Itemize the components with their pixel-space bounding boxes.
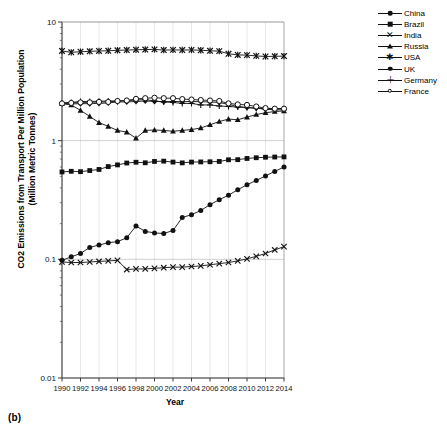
filled-circle-icon [378, 8, 402, 19]
data-point [189, 160, 194, 165]
data-point [198, 97, 203, 102]
legend-item-uk[interactable]: UK [378, 63, 446, 74]
data-point [263, 106, 268, 111]
legend: ChinaBrazil✕IndiaRussia✱USAUK＋GermanyFra… [378, 8, 446, 97]
data-point [134, 160, 139, 165]
filled-diamond-icon [378, 64, 402, 75]
data-point [133, 135, 139, 140]
legend-item-russia[interactable]: Russia [378, 41, 446, 52]
data-point [78, 169, 83, 174]
data-point [180, 160, 185, 165]
data-point [171, 160, 176, 165]
data-point [244, 102, 249, 107]
data-point [282, 154, 287, 159]
x-tick-label: 1998 [128, 384, 145, 393]
y-axis-ticks: 1010.10.01 [40, 18, 62, 383]
data-point [180, 97, 185, 102]
data-point [245, 156, 250, 161]
data-point [207, 98, 212, 103]
data-point [263, 155, 268, 160]
data-point [69, 100, 74, 105]
legend-label: China [404, 9, 425, 18]
legend-label: UK [404, 65, 415, 74]
y-tick-label: 0.01 [40, 374, 56, 383]
data-point [282, 164, 287, 169]
data-point [97, 243, 102, 248]
legend-item-brazil[interactable]: Brazil [378, 19, 446, 30]
data-point [87, 113, 93, 118]
data-point [134, 223, 139, 228]
data-point [78, 100, 83, 105]
data-point [189, 212, 194, 217]
data-point [133, 96, 138, 101]
data-point [254, 104, 259, 109]
data-point [87, 245, 92, 250]
x-tick-label: 2002 [165, 384, 182, 393]
data-point [198, 160, 203, 165]
data-point [208, 202, 213, 207]
data-point [226, 193, 231, 198]
asterisk-icon: ✱ [378, 52, 402, 63]
x-tick-label: 1992 [72, 384, 89, 393]
legend-label: USA [404, 53, 420, 62]
data-point [180, 215, 185, 220]
data-point [281, 106, 286, 111]
data-point [152, 95, 157, 100]
x-tick-label: 2000 [146, 384, 163, 393]
data-point [87, 168, 92, 173]
legend-label: India [404, 31, 421, 40]
y-axis-title: CO2 Emissions from Transport Per Million… [16, 34, 38, 284]
data-point [152, 159, 157, 164]
plus-icon: ＋ [378, 75, 402, 86]
data-point [208, 159, 213, 164]
x-icon: ✕ [378, 30, 402, 41]
x-axis-ticks: 1990199219941996199820002002200420062008… [54, 378, 293, 393]
x-tick-label: 1996 [109, 384, 126, 393]
data-point [97, 167, 102, 172]
data-point [272, 155, 277, 160]
panel-label: (b) [8, 412, 21, 423]
data-point [161, 159, 166, 164]
data-point [272, 169, 277, 174]
data-point [78, 251, 83, 256]
data-point [235, 157, 240, 162]
y-axis-title-line1: CO2 Emissions from Transport Per Million… [16, 49, 26, 268]
data-point [171, 228, 176, 233]
legend-item-germany[interactable]: ＋Germany [378, 75, 446, 86]
data-point [254, 155, 259, 160]
x-tick-label: 2014 [276, 384, 293, 393]
data-point [78, 107, 84, 112]
data-point [254, 178, 259, 183]
x-tick-label: 2012 [257, 384, 274, 393]
legend-label: Germany [404, 76, 437, 85]
legend-item-usa[interactable]: ✱USA [378, 52, 446, 63]
y-tick-label: 0.1 [45, 255, 57, 264]
data-point [60, 170, 65, 175]
data-point [217, 197, 222, 202]
filled-triangle-icon [378, 41, 402, 52]
data-point [226, 101, 231, 106]
data-point [170, 96, 175, 101]
legend-label: Brazil [404, 20, 424, 29]
data-point [115, 239, 120, 244]
data-point [161, 96, 166, 101]
data-point [124, 235, 129, 240]
data-point [217, 159, 222, 164]
data-point [152, 230, 157, 235]
data-point [226, 157, 231, 162]
data-point [69, 254, 74, 259]
data-point [235, 102, 240, 107]
legend-item-france[interactable]: France [378, 86, 446, 97]
legend-item-china[interactable]: China [378, 8, 446, 19]
data-point [115, 162, 120, 167]
legend-label: Russia [404, 42, 428, 51]
data-point [245, 182, 250, 187]
legend-item-india[interactable]: ✕India [378, 30, 446, 41]
x-tick-label: 1990 [54, 384, 71, 393]
y-axis-title-line2: (Million Metric Tonnes) [27, 113, 37, 206]
data-point [106, 99, 111, 104]
x-tick-label: 2010 [239, 384, 256, 393]
gridlines [62, 22, 284, 378]
data-point [124, 98, 129, 103]
data-point [272, 106, 277, 111]
